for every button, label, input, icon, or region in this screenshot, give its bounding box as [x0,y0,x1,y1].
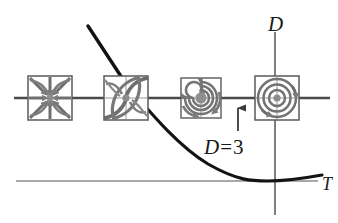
curve-label-variable: D [204,135,219,159]
curve-label-value: 3 [233,135,244,159]
phase-portrait-degenerate-node [104,76,148,120]
phase-portrait-center [255,76,299,120]
curve-label-equals: = [219,135,233,159]
trace-determinant-diagram: D T D=3 [0,0,338,223]
stable-node-flow [28,76,72,120]
axis-label-trace: T [322,175,332,193]
axes-group [14,32,330,215]
phase-portrait-spiral-sink [170,66,221,118]
phase-portrait-stable-node [28,76,72,120]
diagram-canvas [0,0,338,223]
curve-label-d-equals-3: D=3 [204,137,244,158]
axis-label-determinant: D [268,14,283,35]
